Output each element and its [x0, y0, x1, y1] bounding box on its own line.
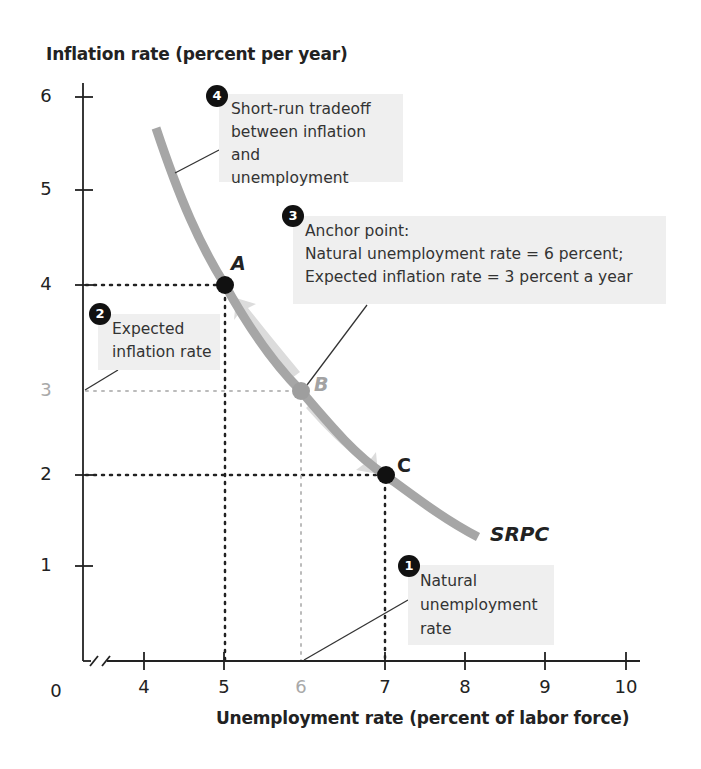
callout-line: Expected [112, 318, 212, 341]
x-tick-6: 6 [286, 676, 316, 697]
x-tick-10: 10 [611, 676, 641, 697]
x-tick-0: 0 [41, 680, 71, 701]
callout-line: Anchor point: [305, 220, 658, 243]
y-tick-2: 2 [31, 463, 61, 484]
callout-expected-inflation: Expected inflation rate [98, 314, 220, 370]
callout-line: inflation rate [112, 341, 212, 364]
y-tick-4: 4 [31, 273, 61, 294]
point-b-label: B [314, 373, 328, 395]
y-tick-6: 6 [31, 85, 61, 106]
callout-line: Natural unemployment rate = 6 percent; [305, 243, 658, 266]
srpc-label: SRPC [490, 522, 549, 546]
y-tick-1: 1 [31, 554, 61, 575]
callout-line: unemployment [420, 593, 546, 617]
callout-line: Expected inflation rate = 3 percent a ye… [305, 266, 658, 289]
x-tick-8: 8 [450, 676, 480, 697]
callout-line: unemployment [231, 167, 395, 190]
point-b [292, 382, 310, 400]
point-a [216, 276, 234, 294]
x-tick-4: 4 [129, 676, 159, 697]
callout-line: between inflation and [231, 121, 395, 167]
callout-line: Short-run tradeoff [231, 98, 395, 121]
x-tick-5: 5 [209, 676, 239, 697]
callout-number-4-icon: 4 [206, 85, 228, 107]
y-tick-5: 5 [31, 178, 61, 199]
point-a-label: A [231, 252, 246, 274]
callout-short-run-tradeoff: Short-run tradeoff between inflation and… [219, 94, 403, 182]
callout-number-2-icon: 2 [89, 303, 111, 325]
x-tick-9: 9 [530, 676, 560, 697]
callout-number-1-icon: 1 [398, 555, 420, 577]
point-c-label: C [397, 454, 411, 476]
callout-number-3-icon: 3 [282, 205, 304, 227]
callout-line: Natural [420, 569, 546, 593]
callout-anchor-point: Anchor point: Natural unemployment rate … [293, 216, 666, 304]
callout-line: rate [420, 617, 546, 641]
point-c [377, 466, 395, 484]
callout-natural-unemployment: Natural unemployment rate [408, 565, 554, 645]
y-tick-3: 3 [31, 379, 61, 400]
x-tick-7: 7 [370, 676, 400, 697]
